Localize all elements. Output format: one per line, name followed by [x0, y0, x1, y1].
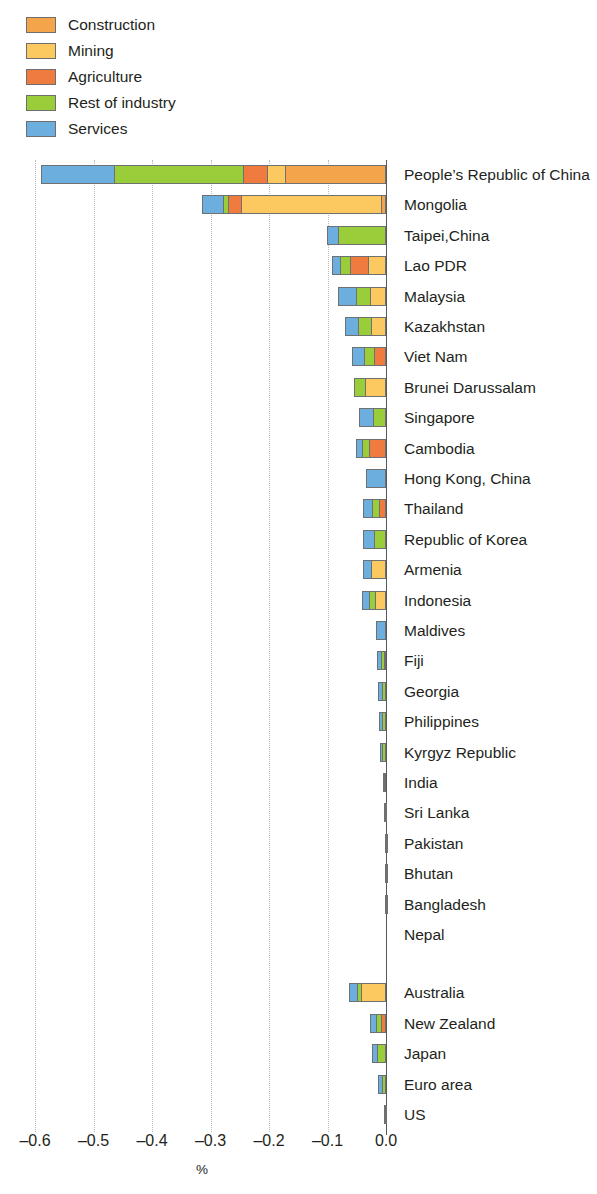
bar-segment-services [332, 256, 340, 275]
category-label: India [404, 768, 438, 798]
legend-swatch-icon [26, 69, 56, 85]
bar-segment-rest-of-industry [372, 499, 379, 518]
bar-segment-rest-of-industry [377, 1044, 386, 1063]
x-tick-label: –0.6 [19, 1132, 50, 1150]
stacked-bar [376, 621, 386, 640]
category-label: Armenia [404, 555, 462, 585]
stacked-bar [359, 408, 386, 427]
bar-segment-construction [285, 165, 386, 184]
bar-segment-mining [361, 983, 386, 1002]
bar-segment-mining [370, 287, 386, 306]
category-label: Lao PDR [404, 251, 467, 281]
bar-segment-mining [368, 256, 386, 275]
bar-segment-services [363, 530, 374, 549]
chart-legend: ConstructionMiningAgricultureRest of ind… [26, 12, 356, 142]
stacked-bar [385, 834, 386, 853]
x-axis: –0.6–0.5–0.4–0.3–0.2–0.10.0 % [0, 1132, 597, 1194]
stacked-bar [345, 317, 386, 336]
stacked-bar [349, 983, 386, 1002]
bar-segment-mining [375, 591, 386, 610]
bar-segment-rest-of-industry [362, 439, 369, 458]
bar-segment-rest-of-industry [356, 287, 370, 306]
bar-segment-rest-of-industry [386, 864, 388, 883]
category-label: Kyrgyz Republic [404, 738, 516, 768]
bar-segment-agriculture [381, 1014, 386, 1033]
chart-row: Maldives [0, 616, 597, 646]
chart-row: Viet Nam [0, 342, 597, 372]
bar-segment-rest-of-industry [382, 743, 386, 762]
x-tick-label: 0.0 [375, 1132, 397, 1150]
chart-row: Nepal [0, 920, 597, 950]
bar-segment-rest-of-industry [354, 378, 364, 397]
category-label: People’s Republic of China [404, 160, 590, 190]
category-label: Brunei Darussalam [404, 373, 536, 403]
chart-row: US [0, 1100, 597, 1130]
stacked-bar [202, 195, 386, 214]
stacked-bar [352, 347, 386, 366]
category-label: Indonesia [404, 586, 471, 616]
chart-row: New Zealand [0, 1009, 597, 1039]
bar-segment-services [345, 317, 359, 336]
legend-item: Construction [26, 12, 356, 38]
chart-row: Armenia [0, 555, 597, 585]
chart-row: Georgia [0, 677, 597, 707]
bar-segment-rest-of-industry [340, 256, 350, 275]
category-label: US [404, 1100, 426, 1130]
chart-row: Hong Kong, China [0, 464, 597, 494]
bar-segment-rest-of-industry [386, 895, 388, 914]
bar-segment-agriculture [228, 195, 241, 214]
bar-segment-services [363, 499, 371, 518]
bar-segment-services [349, 983, 356, 1002]
chart-row: Mongolia [0, 190, 597, 220]
bar-segment-rest-of-industry [364, 347, 374, 366]
stacked-bar [338, 287, 386, 306]
legend-swatch-icon [26, 95, 56, 111]
bar-segment-rest-of-industry [382, 712, 386, 731]
category-label: Bangladesh [404, 890, 486, 920]
bar-segment-services [41, 165, 114, 184]
chart-row: Australia [0, 978, 597, 1008]
bar-segment-mining [371, 560, 386, 579]
category-label: Cambodia [404, 434, 475, 464]
chart-row: Kazakhstan [0, 312, 597, 342]
bar-segment-agriculture [243, 165, 267, 184]
category-label: Fiji [404, 646, 424, 676]
bar-segment-rest-of-industry [373, 408, 386, 427]
category-label: Malaysia [404, 282, 465, 312]
chart-row: Republic of Korea [0, 525, 597, 555]
x-tick-label: –0.4 [136, 1132, 167, 1150]
stacked-bar [384, 803, 386, 822]
chart-row: Indonesia [0, 586, 597, 616]
bar-segment-services [352, 347, 363, 366]
chart-row: Euro area [0, 1070, 597, 1100]
chart-row: People’s Republic of China [0, 160, 597, 190]
bar-segment-rest-of-industry [338, 226, 386, 245]
category-label: Philippines [404, 707, 479, 737]
bar-segment-agriculture [350, 256, 368, 275]
bar-segment-services [366, 469, 386, 488]
category-label: Bhutan [404, 859, 453, 889]
stacked-bar [377, 651, 386, 670]
x-tick-label: –0.3 [195, 1132, 226, 1150]
chart-row: Philippines [0, 707, 597, 737]
bar-segment-rest-of-industry [384, 773, 386, 792]
stacked-bar [363, 499, 386, 518]
category-label: Pakistan [404, 829, 463, 859]
bar-segment-rest-of-industry [374, 530, 386, 549]
chart-row: Sri Lanka [0, 798, 597, 828]
bar-segment-services [359, 408, 374, 427]
chart-row: Bhutan [0, 859, 597, 889]
bar-segment-rest-of-industry [385, 803, 387, 822]
stacked-bar [363, 530, 386, 549]
stacked-bar [332, 256, 386, 275]
bar-segment-rest-of-industry [114, 165, 243, 184]
bar-segment-rest-of-industry [386, 834, 388, 853]
x-axis-title: % [196, 1162, 208, 1177]
chart-row: Japan [0, 1039, 597, 1069]
stacked-bar [366, 469, 386, 488]
x-tick-label: –0.5 [78, 1132, 109, 1150]
legend-item: Rest of industry [26, 90, 356, 116]
bar-segment-services [362, 591, 369, 610]
bar-segment-agriculture [379, 499, 386, 518]
stacked-bar [379, 712, 386, 731]
